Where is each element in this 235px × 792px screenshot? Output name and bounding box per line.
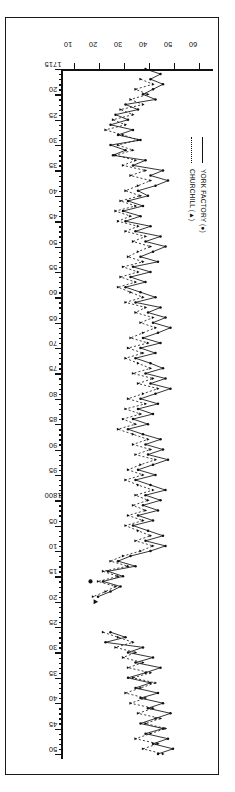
data-point-marker xyxy=(152,250,155,253)
data-point-marker xyxy=(144,494,147,497)
x-axis-tick-label: 45 xyxy=(49,720,57,729)
data-point-marker xyxy=(159,666,162,669)
data-point-marker xyxy=(154,184,157,187)
data-point-marker xyxy=(152,489,155,492)
data-point-marker xyxy=(157,261,160,264)
data-point-marker xyxy=(127,428,130,431)
data-point-marker xyxy=(124,189,127,192)
data-point-marker xyxy=(147,529,150,532)
x-axis-major-tick xyxy=(55,500,63,501)
data-point-marker xyxy=(139,463,142,466)
data-point-marker xyxy=(167,179,170,182)
data-point-marker xyxy=(127,651,130,654)
rotated-figure-host: 1715202530354045505560657075808590951800… xyxy=(5,17,219,775)
data-point-marker xyxy=(144,169,147,172)
data-point-marker xyxy=(152,316,155,319)
x-axis-tick-label: 55 xyxy=(49,263,57,272)
x-axis-major-tick xyxy=(55,348,63,349)
x-axis-tick-label: 25 xyxy=(49,618,57,627)
x-axis-major-tick xyxy=(55,170,63,171)
data-point-marker xyxy=(92,595,95,598)
data-point-marker xyxy=(114,646,117,649)
data-point-marker xyxy=(139,78,142,81)
data-point-marker xyxy=(144,306,147,309)
data-point-marker xyxy=(147,423,150,426)
data-point-marker xyxy=(132,240,135,243)
data-point-marker xyxy=(109,560,112,563)
series-line xyxy=(106,632,174,754)
data-point-marker xyxy=(152,88,155,91)
data-point-marker xyxy=(162,448,165,451)
x-axis-tick-label: 45 xyxy=(49,212,57,221)
data-point-marker xyxy=(154,681,157,684)
data-point-marker xyxy=(104,641,107,644)
data-point-marker xyxy=(142,504,145,507)
data-point-marker xyxy=(147,453,150,456)
x-axis-tick-label: 20 xyxy=(49,85,57,94)
data-point-marker xyxy=(134,737,137,740)
data-point-marker xyxy=(149,362,152,365)
data-point-marker xyxy=(102,631,105,634)
data-point-marker xyxy=(162,752,165,755)
data-point-marker xyxy=(147,438,150,441)
data-point-marker xyxy=(164,245,167,248)
data-point-marker xyxy=(137,139,140,142)
data-point-marker xyxy=(137,408,140,411)
data-point-marker xyxy=(154,352,157,355)
legend-label: YORK FACTORY (●) xyxy=(200,169,207,233)
data-point-marker xyxy=(124,636,127,639)
x-axis-major-tick xyxy=(55,94,63,95)
data-point-marker xyxy=(137,712,140,715)
data-point-marker xyxy=(119,108,122,111)
data-point-marker xyxy=(137,362,140,365)
data-point-marker xyxy=(159,499,162,502)
data-point-marker xyxy=(134,651,137,654)
data-point-marker xyxy=(129,702,132,705)
data-point-marker xyxy=(164,316,167,319)
data-point-marker xyxy=(162,83,165,86)
data-point-marker xyxy=(167,458,170,461)
data-point-marker xyxy=(134,479,137,482)
data-point-marker xyxy=(142,337,145,340)
data-point-marker xyxy=(149,448,152,451)
data-point-marker xyxy=(134,230,137,233)
x-axis-major-tick xyxy=(55,551,63,552)
x-axis-major-tick xyxy=(55,754,63,755)
data-point-marker xyxy=(159,438,162,441)
data-point-marker xyxy=(142,296,145,299)
x-axis-tick-label: 40 xyxy=(49,694,57,703)
data-point-marker xyxy=(134,281,137,284)
series-line xyxy=(98,69,171,597)
data-point-marker xyxy=(97,595,100,598)
data-point-marker xyxy=(124,357,127,360)
data-point-marker xyxy=(162,169,165,172)
data-point-marker xyxy=(149,484,152,487)
data-point-marker xyxy=(104,128,107,131)
data-point-marker xyxy=(142,519,145,522)
data-point-marker xyxy=(129,174,132,177)
data-point-marker xyxy=(122,164,125,167)
data-point-marker xyxy=(137,225,140,228)
y-axis-tick-label: 60 xyxy=(190,40,212,49)
data-point-marker xyxy=(129,215,132,218)
x-axis-tick-label: 05 xyxy=(49,517,57,526)
data-point-marker xyxy=(127,118,130,121)
data-point-marker xyxy=(119,585,122,588)
data-point-marker xyxy=(142,433,145,436)
y-axis-tick-label: 20 xyxy=(90,40,112,49)
data-point-marker xyxy=(152,656,155,659)
data-point-marker xyxy=(147,342,150,345)
data-point-marker xyxy=(162,702,165,705)
data-point-marker xyxy=(134,453,137,456)
data-point-marker xyxy=(139,550,142,553)
data-point-marker xyxy=(144,240,147,243)
data-point-marker xyxy=(152,321,155,324)
data-point-marker xyxy=(117,560,120,563)
data-point-marker xyxy=(127,677,130,680)
data-point-marker xyxy=(137,250,140,253)
x-axis-tick-label: 25 xyxy=(49,111,57,120)
data-point-marker xyxy=(119,199,122,202)
data-point-marker xyxy=(127,514,130,517)
data-point-marker xyxy=(139,413,142,416)
data-point-marker xyxy=(122,418,125,421)
